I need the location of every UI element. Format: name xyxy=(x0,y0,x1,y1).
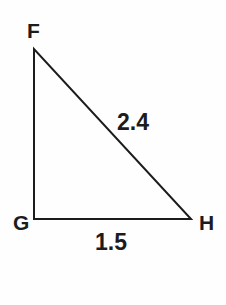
vertex-label-f: F xyxy=(27,20,40,41)
vertex-label-h: H xyxy=(199,212,214,233)
triangle-drawing xyxy=(0,0,226,305)
side-length-label-fh: 2.4 xyxy=(117,111,149,134)
side-length-label-gh: 1.5 xyxy=(95,231,127,254)
vertex-label-g: G xyxy=(13,212,29,233)
triangle-figure: F G H 2.4 1.5 xyxy=(0,0,226,305)
